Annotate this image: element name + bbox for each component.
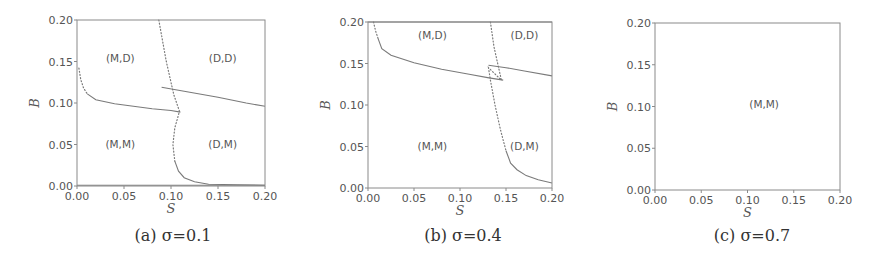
series-vertical-boundary-dotted [489, 22, 507, 151]
y-tick-label: 0.15 [49, 56, 74, 69]
caption-a: (a) σ=0.1 [135, 226, 212, 245]
x-axis-label: S [743, 205, 752, 220]
x-axis-label: S [456, 203, 465, 218]
series-left-boundary-dotted [79, 68, 87, 94]
x-tick-label: 0.20 [828, 194, 853, 207]
axes-frame [368, 22, 552, 188]
y-axis-label: B [318, 100, 333, 111]
y-tick-label: 0.15 [340, 58, 365, 71]
x-tick-label: 0.20 [540, 192, 565, 205]
y-tick-label: 0.10 [49, 97, 74, 110]
region-label: (D,D) [209, 52, 237, 64]
y-tick-label: 0.15 [627, 59, 652, 72]
caption-c: (c) σ=0.7 [714, 226, 790, 245]
y-tick-label: 0.00 [627, 184, 652, 197]
y-tick-label: 0.10 [627, 101, 652, 114]
subplot-a: (a) σ=0.1 0.000.050.100.150.200.000.050.… [27, 14, 277, 245]
y-tick-label: 0.10 [340, 99, 365, 112]
axes-frame [655, 23, 840, 190]
region-label: (D,D) [511, 29, 539, 41]
x-tick-label: 0.15 [494, 192, 519, 205]
caption-b: (b) σ=0.4 [424, 226, 502, 245]
axes-frame [77, 20, 265, 186]
series-vertical-boundary-tail [175, 161, 265, 185]
y-tick-label: 0.00 [49, 180, 74, 193]
x-tick-label: 0.05 [689, 194, 714, 207]
y-tick-label: 0.00 [340, 182, 365, 195]
y-tick-label: 0.05 [340, 141, 365, 154]
phase-diagram-figure: (a) σ=0.1 0.000.050.100.150.200.000.050.… [0, 0, 881, 270]
series-left-boundary [378, 39, 503, 81]
series-left-boundary-dotted [374, 22, 379, 39]
y-axis-label: B [27, 98, 42, 109]
region-label: (M,M) [418, 140, 448, 152]
y-tick-label: 0.05 [49, 139, 74, 152]
series-vertical-boundary-dotted [159, 20, 180, 161]
region-label: (M,D) [106, 52, 135, 64]
x-axis-label: S [167, 201, 176, 216]
x-tick-label: 0.05 [112, 190, 137, 203]
region-label: (M,M) [749, 98, 779, 110]
region-label: (D,M) [208, 138, 237, 150]
region-label: (M,M) [105, 138, 135, 150]
y-axis-label: B [605, 102, 620, 113]
region-label: (M,D) [418, 29, 447, 41]
subplot-b: (b) σ=0.4 0.000.050.100.150.200.000.050.… [318, 16, 564, 245]
series-left-boundary [87, 94, 180, 112]
x-tick-label: 0.05 [402, 192, 427, 205]
y-tick-label: 0.20 [340, 16, 365, 29]
series-vertical-boundary-tail [506, 151, 552, 183]
x-tick-label: 0.15 [206, 190, 231, 203]
subplot-c: (c) σ=0.7 0.000.050.100.150.200.000.050.… [605, 17, 852, 245]
series-right-boundary [162, 87, 265, 106]
y-tick-label: 0.05 [627, 142, 652, 155]
x-tick-label: 0.15 [782, 194, 807, 207]
y-tick-label: 0.20 [627, 17, 652, 30]
region-label: (D,M) [510, 140, 539, 152]
x-tick-label: 0.20 [253, 190, 278, 203]
y-tick-label: 0.20 [49, 14, 74, 27]
